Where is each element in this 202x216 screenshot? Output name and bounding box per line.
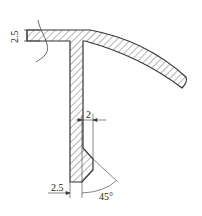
label-web-thickness: 2.5 bbox=[51, 183, 64, 193]
label-chamfer-angle: 45° bbox=[99, 192, 113, 202]
drawing-canvas: 2.5 2 2.5 45° bbox=[0, 0, 202, 216]
label-web-offset: 2 bbox=[86, 110, 91, 120]
profile-section bbox=[27, 30, 187, 182]
label-flange-thickness: 2.5 bbox=[10, 31, 20, 44]
section-drawing bbox=[0, 0, 202, 216]
